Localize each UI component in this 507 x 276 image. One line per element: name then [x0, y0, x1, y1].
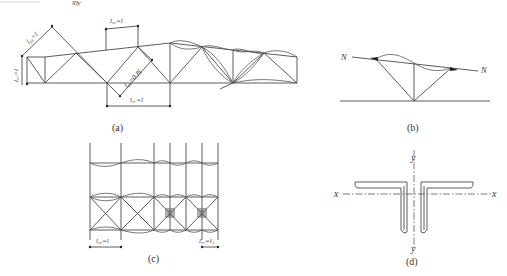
strut-right: [414, 68, 451, 101]
label-c-right: l₀ᵧ=l₁: [199, 237, 214, 245]
caption-b: (b): [407, 122, 419, 134]
diag-projection-mid: [107, 47, 152, 96]
panel-b-member: N N (b): [340, 52, 490, 134]
dim-oy-line: [106, 26, 138, 29]
strut-left: [376, 59, 414, 101]
label-l-ox-08: l₀ₓ=0.8l: [123, 68, 144, 89]
caption-a: (a): [112, 122, 123, 134]
label-c-left: l₀ᵧ=l: [96, 237, 109, 245]
top-fragment-text: l0y: [72, 0, 81, 7]
buckle-wave: [376, 54, 451, 70]
panel-c-plan: l₀ᵧ=l l₀ᵧ=l₁ (c): [89, 143, 219, 265]
label-l-oy-top: l₀ᵧ=l: [110, 17, 123, 25]
axis-y-bottom: y: [410, 243, 416, 254]
wave-row2b: [90, 197, 121, 201]
caption-c: (c): [148, 253, 159, 265]
figure-canvas: l0y l₀ᵧ=l: [0, 0, 507, 276]
panel-a-truss: l₀ᵧ=l l₀ₓ=l l₀ₓ=0.8l l₀ₓ=l l₀ₓ=l (a): [12, 17, 297, 134]
force-right-label: N: [480, 65, 488, 75]
label-l-ox-vert: l₀ₓ=l: [12, 69, 20, 82]
angle-right: [421, 182, 473, 233]
buckle-bottom-wave: [233, 80, 297, 83]
top-chord: [45, 43, 297, 57]
angle-left: [355, 182, 407, 233]
axis-x-left: x: [333, 188, 339, 199]
axis-x-right: x: [491, 188, 497, 199]
buckle-tail: [220, 83, 233, 89]
top-fragment: l0y: [0, 0, 81, 7]
panel-d-section: x x y y (d): [333, 150, 497, 268]
force-left-label: N: [340, 52, 348, 62]
axis-y-top: y: [410, 152, 416, 163]
label-l-ox-bottom: l₀ₓ=l: [130, 96, 143, 104]
caption-d: (d): [406, 256, 418, 268]
label-l-ox-diag: l₀ₓ=l: [25, 31, 40, 46]
